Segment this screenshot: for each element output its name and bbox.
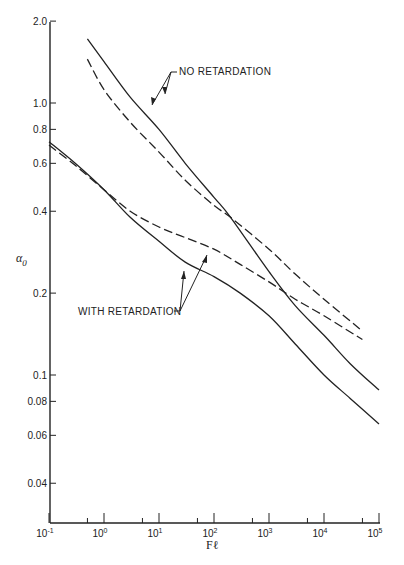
y-tick-label: 2.0	[33, 16, 47, 27]
axes: 2.01.00.80.60.40.20.10.080.060.0410-1100…	[28, 16, 383, 539]
x-tick-label: 100	[92, 527, 107, 539]
series-line	[49, 142, 379, 424]
y-tick-label: 0.04	[28, 478, 48, 489]
chart: 2.01.00.80.60.40.20.10.080.060.0410-1100…	[0, 0, 404, 565]
annotations: NO RETARDATION WITH RETARDATION	[78, 66, 271, 317]
y-tick-label: 0.08	[28, 396, 48, 407]
series-line	[87, 39, 379, 390]
x-tick-label: 10-1	[36, 527, 53, 539]
series-line	[87, 59, 362, 331]
y-tick-label: 0.8	[33, 124, 47, 135]
arrowhead-icon	[151, 97, 156, 105]
y-tick-label: 0.6	[33, 158, 47, 169]
x-tick-label: 101	[147, 527, 162, 539]
with-retardation-label: WITH RETARDATION	[78, 306, 181, 317]
x-tick-label: 104	[312, 527, 327, 539]
arrowhead-icon	[202, 255, 207, 263]
y-tick-label: 0.2	[33, 288, 47, 299]
x-tick-label: 105	[367, 527, 382, 539]
y-tick-label: 0.4	[33, 206, 47, 217]
y-axis-label: α0	[16, 251, 27, 268]
x-axis-label: Fℓ	[206, 538, 219, 552]
y-tick-label: 0.1	[33, 370, 47, 381]
curves	[49, 39, 379, 424]
y-tick-label: 0.06	[28, 430, 48, 441]
no-retardation-label: NO RETARDATION	[179, 66, 271, 77]
x-tick-label: 103	[257, 527, 272, 539]
with-ret-leader-2	[180, 255, 207, 311]
y-tick-label: 1.0	[33, 98, 47, 109]
